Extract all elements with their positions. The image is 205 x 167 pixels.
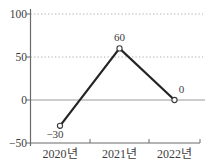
y-tick-label: 100 [10,8,28,20]
data-point-marker [172,97,177,102]
chart-figure: 100500−502020년2021년2022년−30600 [0,0,205,167]
x-category-label: 2022년 [157,147,192,161]
data-point-label: −30 [46,128,64,140]
y-tick-label: 50 [16,51,28,63]
data-point-label: 0 [179,83,185,95]
y-tick-label: −50 [9,137,27,149]
line-chart-svg: 100500−502020년2021년2022년−30600 [0,0,205,167]
y-tick-label: 0 [21,94,27,106]
x-category-label: 2020년 [43,147,78,161]
x-category-label: 2021년 [102,147,137,161]
data-line [60,48,175,125]
data-point-label: 60 [114,31,126,43]
data-point-marker [117,46,122,51]
